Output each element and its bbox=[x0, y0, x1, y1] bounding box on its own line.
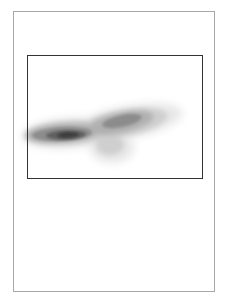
density-contours bbox=[21, 97, 185, 163]
density-plot bbox=[0, 0, 227, 302]
